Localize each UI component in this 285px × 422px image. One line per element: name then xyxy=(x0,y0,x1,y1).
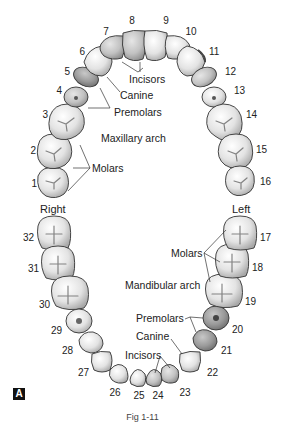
mandibular-molars-label: Molars xyxy=(171,247,203,259)
tooth-number-12: 12 xyxy=(225,66,237,77)
tooth-number-3: 3 xyxy=(42,109,48,120)
tooth-number-31: 31 xyxy=(28,263,40,274)
tooth-number-25: 25 xyxy=(133,390,145,401)
tooth-number-14: 14 xyxy=(246,109,258,120)
tooth-number-7: 7 xyxy=(103,26,109,37)
tooth-number-29: 29 xyxy=(51,325,63,336)
tooth-27 xyxy=(91,351,112,372)
tooth-16 xyxy=(226,166,255,196)
tooth-number-13: 13 xyxy=(234,85,246,96)
tooth-32 xyxy=(38,216,71,250)
tooth-19 xyxy=(206,274,243,308)
maxillary-canine-label: Canine xyxy=(120,89,153,101)
tooth-number-19: 19 xyxy=(245,296,257,307)
maxillary-premolars-label: Premolars xyxy=(114,106,162,118)
mandibular-premolars-label: Premolars xyxy=(136,312,184,324)
tooth-number-10: 10 xyxy=(185,26,197,37)
right-side-label: Right xyxy=(40,203,66,215)
tooth-30 xyxy=(52,276,89,310)
tooth-number-20: 20 xyxy=(232,324,244,335)
tooth-23 xyxy=(161,364,179,383)
figure-caption: Fig 1-11 xyxy=(0,412,285,422)
tooth-number-5: 5 xyxy=(64,66,70,77)
tooth-22 xyxy=(179,351,200,372)
tooth-number-6: 6 xyxy=(79,46,85,57)
tooth-number-30: 30 xyxy=(39,299,51,310)
mandibular-premolars-leader xyxy=(185,317,203,319)
tooth-number-32: 32 xyxy=(23,232,35,243)
tooth-number-15: 15 xyxy=(256,144,268,155)
tooth-15 xyxy=(218,134,252,169)
tooth-number-17: 17 xyxy=(260,232,272,243)
tooth-number-8: 8 xyxy=(129,15,135,26)
tooth-number-21: 21 xyxy=(221,345,233,356)
tooth-number-26: 26 xyxy=(109,387,121,398)
tooth-26 xyxy=(109,364,128,383)
maxillary-arch: 1 2 3 4 5 6 7 8 9 10 11 12 13 14 15 16 I… xyxy=(30,15,271,198)
tooth-20 xyxy=(203,306,229,330)
mandibular-incisors-label: Incisors xyxy=(125,349,161,361)
panel-label-badge: A xyxy=(13,388,25,400)
maxillary-molars-label: Molars xyxy=(92,162,124,174)
tooth-4 xyxy=(64,87,88,107)
tooth-number-9: 9 xyxy=(163,15,169,26)
mandibular-canine-leader xyxy=(171,339,182,354)
tooth-28 xyxy=(79,332,103,353)
premolars-leader xyxy=(88,88,110,108)
tooth-29 xyxy=(66,309,92,333)
tooth-number-1: 1 xyxy=(31,178,37,189)
tooth-number-22: 22 xyxy=(207,367,219,378)
tooth-21 xyxy=(193,330,217,351)
tooth-number-16: 16 xyxy=(260,176,272,187)
canine-leader xyxy=(107,77,120,92)
tooth-number-23: 23 xyxy=(179,387,191,398)
tooth-24 xyxy=(146,369,162,386)
tooth-7 xyxy=(100,36,125,59)
tooth-number-2: 2 xyxy=(30,145,36,156)
tooth-number-11: 11 xyxy=(209,46,220,57)
tooth-number-28: 28 xyxy=(62,345,74,356)
mandibular-arch-label: Mandibular arch xyxy=(125,279,200,291)
left-side-label: Left xyxy=(232,203,250,215)
maxillary-arch-label: Maxillary arch xyxy=(101,132,166,144)
mandibular-arch: 32 31 30 29 28 27 26 25 24 23 22 21 20 1… xyxy=(23,216,272,401)
tooth-17 xyxy=(224,216,257,250)
tooth-31 xyxy=(42,246,75,280)
tooth-9 xyxy=(144,30,168,60)
tooth-number-4: 4 xyxy=(56,85,62,96)
maxillary-incisors-label: Incisors xyxy=(129,73,165,85)
tooth-1 xyxy=(38,168,69,198)
tooth-number-27: 27 xyxy=(78,367,90,378)
tooth-25 xyxy=(130,369,146,386)
tooth-number-24: 24 xyxy=(152,390,164,401)
mandibular-canine-label: Canine xyxy=(136,330,169,342)
tooth-8 xyxy=(122,30,146,60)
tooth-3 xyxy=(49,104,84,140)
tooth-number-18: 18 xyxy=(252,262,264,273)
